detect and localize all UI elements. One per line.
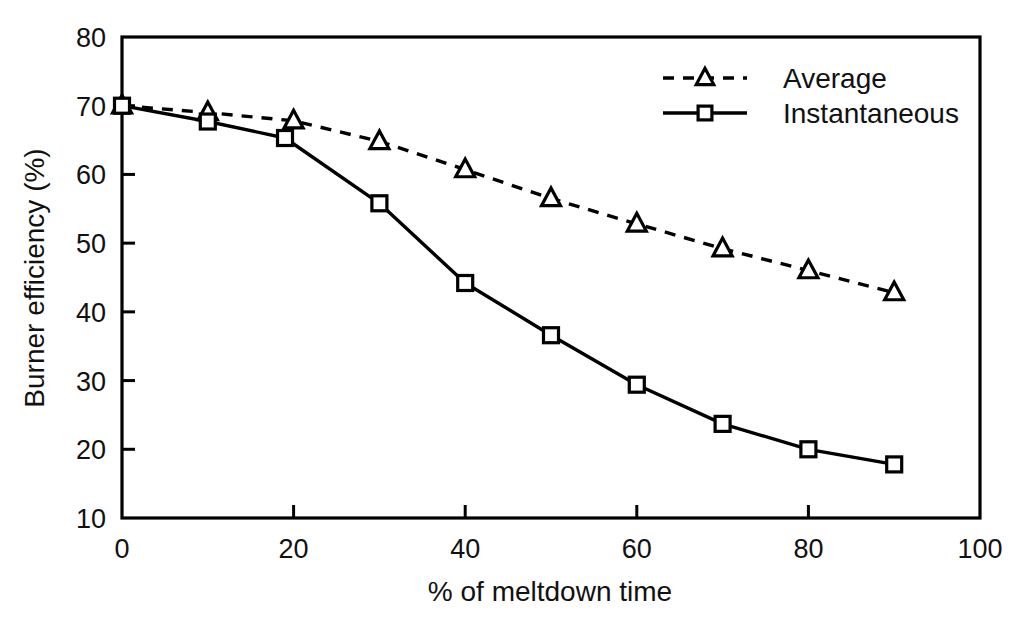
data-point-marker [715,416,730,431]
y-tick-label: 10 [76,504,106,534]
data-point-marker [629,377,644,392]
x-tick-label: 20 [279,534,309,564]
x-tick-label: 80 [793,534,823,564]
data-point-marker [801,442,816,457]
chart-figure: 020406080100 1020304050607080 AverageIns… [0,0,1035,627]
x-tick-label: 0 [114,534,129,564]
y-tick-label: 80 [76,23,106,53]
y-tick-label: 30 [76,367,106,397]
data-point-marker [544,328,559,343]
data-point-marker [372,196,387,211]
x-tick-label: 60 [622,534,652,564]
y-tick-label: 40 [76,298,106,328]
x-tick-label: 40 [450,534,480,564]
y-tick-label: 70 [76,92,106,122]
legend-marker-square-icon [698,106,712,120]
data-point-marker [278,131,293,146]
legend-label: Average [783,63,887,94]
burner-efficiency-line-chart: 020406080100 1020304050607080 AverageIns… [0,0,1035,627]
data-point-marker [115,98,130,113]
data-point-marker [458,275,473,290]
legend-label: Instantaneous [783,98,959,129]
data-point-marker [887,457,902,472]
y-tick-label: 60 [76,160,106,190]
data-point-marker [200,114,215,129]
y-tick-label: 50 [76,229,106,259]
y-tick-label: 20 [76,435,106,465]
x-tick-label: 100 [957,534,1002,564]
y-axis-title: Burner efficiency (%) [19,148,50,407]
x-axis-title: % of meltdown time [428,576,672,607]
